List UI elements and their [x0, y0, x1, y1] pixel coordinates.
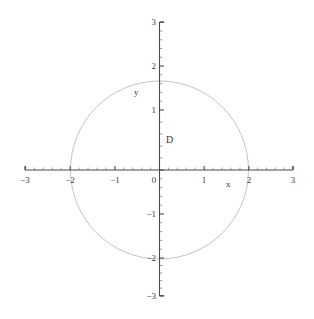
y-tick-label-1: 1 — [152, 106, 157, 115]
x-tick-label-2: 2 — [247, 176, 252, 185]
y-tick-label-2: 2 — [152, 62, 157, 71]
y-tick-label--3: −3 — [146, 292, 156, 301]
x-tick-label--1: −1 — [110, 176, 120, 185]
x-axis-label: x — [226, 180, 231, 189]
y-axis-major-ticks — [160, 22, 165, 295]
plot-canvas — [0, 0, 314, 319]
y-tick-label-3: 3 — [152, 18, 157, 27]
x-tick-label-0: 0 — [152, 176, 157, 185]
x-tick-label-1: 1 — [202, 176, 207, 185]
y-axis — [160, 22, 165, 296]
y-tick-label--1: −1 — [146, 210, 156, 219]
x-tick-label--3: −3 — [20, 176, 30, 185]
y-tick-label--2: −2 — [146, 254, 156, 263]
x-tick-label-3: 3 — [291, 176, 296, 185]
y-axis-label: y — [134, 88, 139, 97]
region-label-D: D — [166, 135, 173, 144]
x-tick-label--2: −2 — [65, 176, 75, 185]
coordinate-plot: −3 −2 −1 0 1 2 3 3 2 1 −1 −2 −3 y x D — [0, 0, 314, 319]
